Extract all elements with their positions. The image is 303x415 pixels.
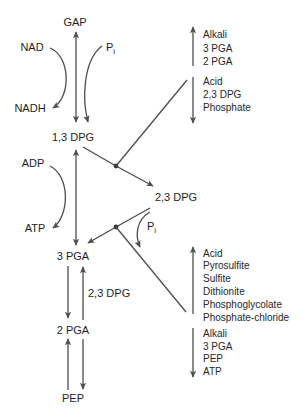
mutase-cofactor-label: 2,3 DPG — [88, 287, 130, 299]
upper-down-effector: Acid — [203, 76, 222, 87]
lower-down-effector: Alkali — [203, 328, 227, 339]
cofactor-adp: ADP — [22, 157, 45, 169]
lower-up-effector: Sulfite — [203, 273, 231, 284]
cofactor-nadh: NADH — [14, 102, 45, 114]
cofactor-pi-mid: Pi — [147, 220, 156, 235]
node-2-3-dpg: 2,3 DPG — [155, 191, 197, 203]
cofactor-nad: NAD — [20, 41, 43, 53]
lower-down-effector: PEP — [203, 353, 223, 364]
upper-up-effector: Alkali — [203, 29, 227, 40]
lower-up-effector: Phosphate-chloride — [203, 312, 290, 323]
dpg23-to-pga3-arrow — [88, 208, 150, 243]
node-pep: PEP — [62, 392, 84, 404]
rapoport-luebering-shunt-diagram: GAP NAD NADH Pi 1,3 DPG ADP ATP 2,3 DPG … — [0, 0, 303, 415]
lower-up-effector: Pyrosulfite — [203, 260, 250, 271]
adp-to-atp-curved-arrow — [50, 166, 65, 228]
cofactor-pi-top: Pi — [106, 41, 115, 56]
upper-up-effector: 3 PGA — [203, 43, 233, 54]
cofactor-atp: ATP — [25, 222, 46, 234]
node-1-3-dpg: 1,3 DPG — [52, 131, 94, 143]
lower-down-effector: 3 PGA — [203, 341, 233, 352]
upper-down-effector: 2,3 DPG — [203, 89, 242, 100]
node-gap: GAP — [63, 16, 86, 28]
lower-up-effector: Dithionite — [203, 286, 245, 297]
pi-top-curved-arrow — [85, 46, 102, 122]
upper-down-effector: Phosphate — [203, 102, 251, 113]
lower-up-effector: Phosphoglycolate — [203, 299, 282, 310]
lower-down-effector: ATP — [203, 366, 222, 377]
nad-to-nadh-curved-arrow — [50, 48, 66, 108]
upper-up-effector: 2 PGA — [203, 56, 233, 67]
upper-effector-connector — [116, 80, 187, 166]
node-2-pga: 2 PGA — [57, 324, 90, 336]
lower-up-effector: Acid — [203, 248, 222, 259]
node-3-pga: 3 PGA — [57, 250, 90, 262]
lower-effector-connector — [116, 227, 186, 312]
